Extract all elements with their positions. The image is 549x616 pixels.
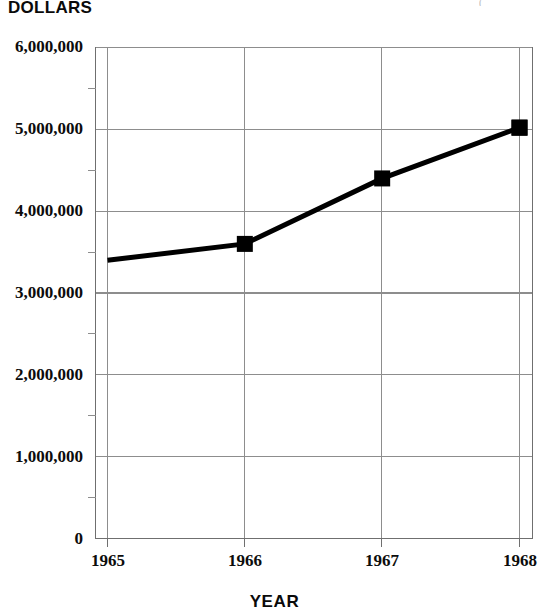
x-axis-title: YEAR (0, 592, 549, 612)
x-tick-label-1967: 1967 (365, 551, 399, 571)
x-tick-labels: 1965 1966 1967 1968 (0, 0, 549, 616)
x-tick-label-1966: 1966 (228, 551, 262, 571)
x-tick-label-1965: 1965 (91, 551, 125, 571)
x-tick-label-1968: 1968 (503, 551, 537, 571)
